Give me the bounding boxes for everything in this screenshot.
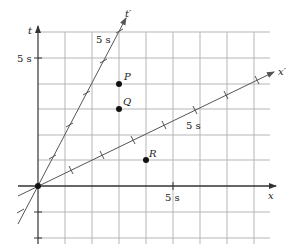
origin-point bbox=[35, 183, 41, 189]
event-r-label: R bbox=[148, 148, 157, 159]
t-axis-label: t bbox=[28, 25, 33, 36]
x-axis-tick-label: 5 s bbox=[165, 192, 180, 203]
t-prime-tick-label: 5 s bbox=[96, 34, 111, 45]
event-p-point bbox=[116, 81, 122, 87]
grid bbox=[38, 32, 270, 244]
t-prime-axis bbox=[18, 18, 126, 224]
x-prime-tick-label: 5 s bbox=[186, 120, 201, 131]
t-prime-axis-label: t′ bbox=[125, 8, 132, 19]
event-p-label: P bbox=[123, 71, 131, 82]
x-prime-axis-label: x′ bbox=[278, 66, 287, 77]
t-axis-tick-label: 5 s bbox=[17, 53, 32, 64]
spacetime-diagram: t 5 s x 5 s t′ 5 s x′ 5 s P Q R bbox=[0, 0, 292, 252]
event-q-label: Q bbox=[123, 96, 131, 107]
x-axis-label: x bbox=[268, 190, 274, 201]
event-q-point bbox=[116, 106, 122, 112]
